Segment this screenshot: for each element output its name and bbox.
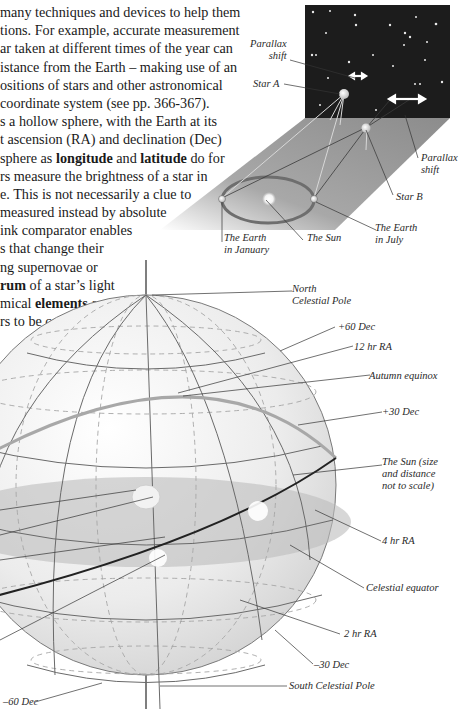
star-a	[339, 89, 349, 99]
label-minus-60-dec: –60 Dec	[3, 696, 38, 708]
label-minus-30-dec: –30 Dec	[314, 659, 349, 671]
label-celestial-equator: Celestial equator	[366, 582, 439, 594]
sun	[262, 192, 276, 206]
label-south-celestial-pole: South Celestial Pole	[289, 680, 375, 692]
label-12-hr-ra: 12 hr RA	[354, 341, 392, 353]
label-4-hr-ra: 4 hr RA	[382, 535, 415, 547]
earth-january	[219, 196, 226, 203]
starfield	[305, 5, 450, 118]
star-b	[362, 124, 371, 133]
label-parallax-shift-a: Parallax shift	[250, 38, 287, 62]
label-plus-60-dec: +60 Dec	[338, 321, 375, 333]
label-autumn-equinox: Autumn equinox	[369, 370, 438, 382]
label-north-celestial-pole: North Celestial Pole	[292, 283, 351, 307]
label-earth-july: The Earth in July	[375, 222, 417, 246]
earth-july	[311, 196, 318, 203]
sun-on-sphere	[132, 485, 160, 509]
celestial-sphere-diagram	[0, 260, 382, 709]
label-plus-30-dec: +30 Dec	[382, 406, 419, 418]
label-sun: The Sun	[307, 232, 341, 244]
label-sun-not-to-scale: The Sun (size and distance not to scale)	[382, 456, 438, 492]
label-earth-january: The Earth in January	[224, 232, 269, 256]
label-2-hr-ra: 2 hr RA	[344, 628, 377, 640]
label-parallax-shift-b: Parallax shift	[421, 152, 458, 176]
illustrations	[0, 0, 470, 709]
label-star-a: Star A	[253, 78, 279, 90]
parallax-diagram	[160, 5, 450, 242]
label-star-b: Star B	[396, 191, 423, 203]
